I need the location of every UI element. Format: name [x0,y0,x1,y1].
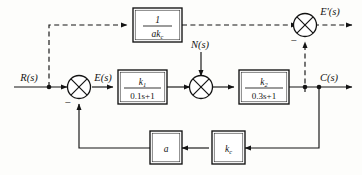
forward-path-wires [14,52,352,87]
summing-junction-disturbance[interactable] [190,76,213,99]
label-output-signal: C(s) [320,72,339,84]
branch-node-output-feedback [317,85,322,90]
block-feedforward-numerator: 1 [155,15,160,25]
summing-junction-error-prime-minus-sign: − [290,34,296,46]
block-g1-numerator-sub: 1 [143,81,146,88]
summing-junction-error-prime[interactable]: − [290,14,316,47]
block-g1-denominator: 0.1s+1 [130,91,154,101]
block-gain-kc-label-sub: c [229,148,232,155]
summing-junction-error-minus-sign: − [64,96,70,108]
block-diagram-svg: 1 akc k1 0.1s+1 k2 0.3s+1 [0,0,362,175]
wire-gain-a-to-sum [79,104,150,148]
block-feedforward[interactable]: 1 akc [133,8,182,42]
block-gain-kc[interactable]: kc [212,131,245,164]
block-g1[interactable]: k1 0.1s+1 [118,70,167,104]
label-error-signal: E(s) [93,72,112,84]
label-input-signal: R(s) [19,72,38,84]
block-gain-a[interactable]: a [150,131,182,164]
block-gain-a-label: a [164,144,169,154]
wire-r-to-feedforward [49,25,127,87]
summing-junction-error[interactable]: − [64,76,90,109]
block-diagram-canvas: 1 akc k1 0.1s+1 k2 0.3s+1 [0,0,362,175]
block-g2-denominator: 0.3s+1 [252,91,276,101]
label-disturbance-signal: N(s) [190,39,210,51]
branch-node-output-feedforward [303,85,308,90]
block-feedforward-denominator-sub: c [161,33,164,40]
branch-node-input [47,85,52,90]
block-g2[interactable]: k2 0.3s+1 [239,70,289,104]
label-error-prime-signal: E'(s) [319,6,340,18]
